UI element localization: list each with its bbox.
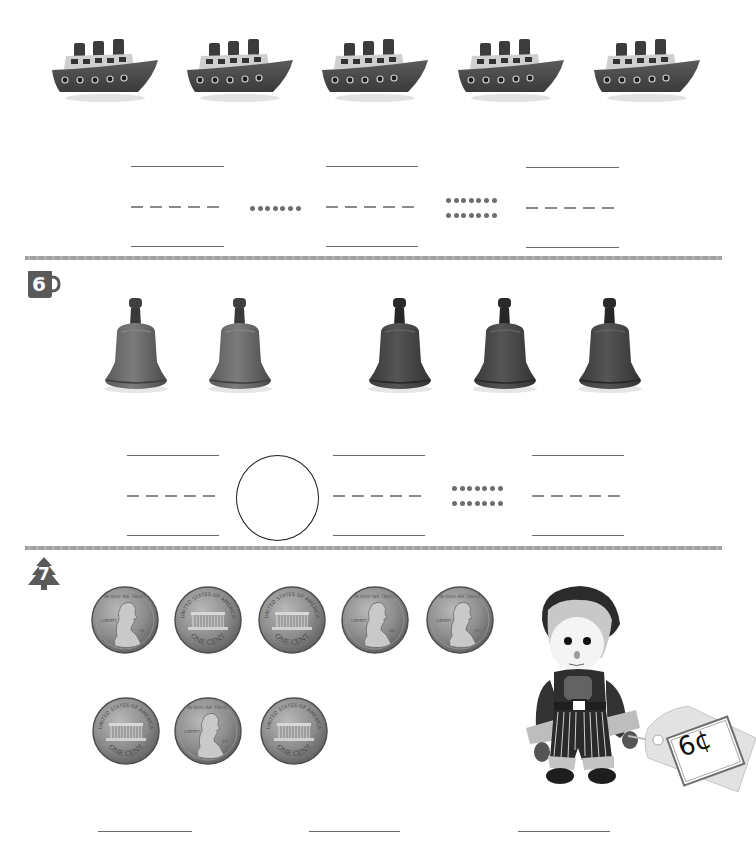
badge-number: 7 bbox=[38, 564, 50, 584]
answer-top-line[interactable] bbox=[326, 166, 418, 167]
penny-tails-icon bbox=[258, 586, 326, 654]
boat-icon bbox=[320, 38, 430, 104]
penny-heads-icon bbox=[341, 586, 409, 654]
answer-line[interactable] bbox=[518, 831, 610, 832]
answer-top-line[interactable] bbox=[526, 167, 619, 168]
bell-icon bbox=[367, 296, 433, 394]
answer-line[interactable] bbox=[309, 831, 400, 832]
price-tag: 6¢ bbox=[628, 698, 756, 794]
answer-bottom-line[interactable] bbox=[333, 535, 425, 536]
answer-bottom-line[interactable] bbox=[532, 535, 624, 536]
bell-icon bbox=[103, 296, 169, 394]
answer-top-line[interactable] bbox=[532, 455, 624, 456]
penny-heads-icon bbox=[91, 586, 159, 654]
penny-heads-icon bbox=[426, 586, 494, 654]
answer-bottom-line[interactable] bbox=[526, 247, 619, 248]
answer-bottom-line[interactable] bbox=[127, 535, 219, 536]
boat-icon bbox=[50, 38, 160, 104]
bell-icon bbox=[577, 296, 643, 394]
answer-dashed-line[interactable] bbox=[532, 495, 624, 497]
penny-tails-icon bbox=[260, 697, 328, 765]
answer-top-line[interactable] bbox=[127, 455, 219, 456]
section-divider bbox=[25, 546, 722, 550]
answer-dashed-line[interactable] bbox=[526, 207, 619, 209]
answer-bottom-line[interactable] bbox=[131, 246, 224, 247]
bell-icon bbox=[472, 296, 538, 394]
badge-number: 6 bbox=[32, 272, 46, 296]
boat-icon bbox=[185, 38, 295, 104]
answer-dashed-line[interactable] bbox=[131, 206, 224, 208]
answer-dashed-line[interactable] bbox=[333, 495, 425, 497]
boat-icon bbox=[456, 38, 566, 104]
dotted-operator-line bbox=[250, 206, 301, 211]
section-7-badge: 7 bbox=[28, 557, 60, 591]
section-6-badge: 6 bbox=[27, 270, 63, 300]
answer-top-line[interactable] bbox=[333, 455, 425, 456]
boat-icon bbox=[592, 38, 702, 104]
answer-dashed-line[interactable] bbox=[127, 495, 219, 497]
operator-circle[interactable] bbox=[236, 455, 319, 541]
answer-line[interactable] bbox=[98, 831, 192, 832]
penny-heads-icon bbox=[174, 697, 242, 765]
answer-top-line[interactable] bbox=[131, 166, 224, 167]
section-divider bbox=[25, 256, 722, 260]
answer-bottom-line[interactable] bbox=[326, 246, 418, 247]
penny-tails-icon bbox=[92, 697, 160, 765]
bell-icon bbox=[207, 296, 273, 394]
answer-dashed-line[interactable] bbox=[326, 206, 418, 208]
penny-tails-icon bbox=[174, 586, 242, 654]
